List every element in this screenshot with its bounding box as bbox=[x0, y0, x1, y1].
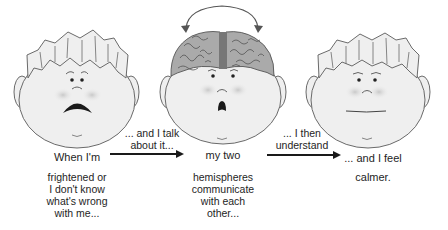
curved-double-arrow-icon bbox=[181, 6, 263, 33]
hemispheres-face bbox=[160, 6, 286, 144]
arrow-2-label: ... I then understand bbox=[262, 127, 342, 151]
panel-1-caption: frightened or I don't know what's wrong … bbox=[22, 171, 132, 219]
arrow-2-icon bbox=[267, 151, 341, 159]
left-eye bbox=[70, 78, 74, 82]
panel-1-caption-top: When I'm bbox=[22, 151, 132, 164]
panel-3-caption-top: ... and I feel bbox=[333, 152, 413, 165]
panel-3-caption: calmer. bbox=[333, 171, 413, 184]
panel-2-caption: hemispheres communicate with each other.… bbox=[168, 171, 278, 219]
right-eye bbox=[80, 78, 84, 82]
arrow-1-label: ... and I talk about it... bbox=[112, 127, 192, 151]
